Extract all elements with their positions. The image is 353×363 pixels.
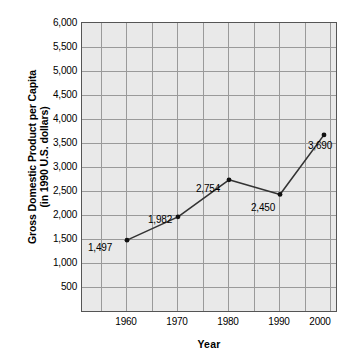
data-point-1960 [125,238,130,243]
x-axis-tick-labels: 1960 1970 1980 1990 2000 [0,316,353,330]
plot-area: 3,690 [81,22,337,312]
x-tick-1970: 1970 [152,316,202,327]
y-tick-500: 500 [22,282,77,292]
y-tick-4000: 4,000 [22,114,77,124]
x-tick-1960: 1960 [101,316,151,327]
point-label-2000-outer: 3,690 [308,141,332,151]
data-series-line [82,23,337,312]
y-tick-2000: 2,000 [22,210,77,220]
y-tick-1000: 1,000 [22,258,77,268]
y-tick-5000: 5,000 [22,66,77,76]
point-label-1990: 2,450 [251,203,275,213]
y-tick-3000: 3,000 [22,162,77,172]
point-label-1970: 1,982 [148,215,172,225]
series-markers [125,132,327,242]
data-point-2000 [322,132,327,137]
y-tick-1500: 1,500 [22,234,77,244]
point-label-1980: 2,754 [196,184,220,194]
data-point-1990 [278,192,283,197]
y-tick-2500: 2,500 [22,186,77,196]
x-tick-2000: 2000 [295,316,345,327]
y-tick-6000: 6,000 [22,18,77,28]
point-label-1960: 1,497 [88,243,112,253]
x-axis-title: Year [81,338,337,350]
gdp-per-capita-line-chart: Gross Domestic Product per Capita (in 19… [0,0,353,363]
y-axis-tick-labels: 6,000 5,500 5,000 4,500 4,000 3,500 3,00… [22,0,77,363]
y-tick-5500: 5,500 [22,42,77,52]
data-point-1980 [227,177,232,182]
data-point-1970 [176,214,181,219]
y-tick-4500: 4,500 [22,90,77,100]
x-tick-1980: 1980 [203,316,253,327]
y-tick-3500: 3,500 [22,138,77,148]
